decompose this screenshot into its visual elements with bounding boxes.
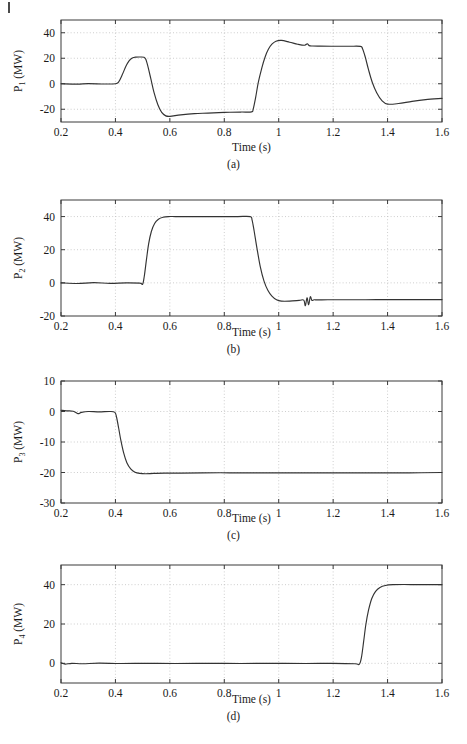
xtick-label-b-7: 1.6 bbox=[435, 320, 450, 332]
xtick-label-c-3: 0.8 bbox=[217, 507, 232, 519]
chart-panel-d: 0.20.40.60.811.21.41.602040P4 (MW)Time (… bbox=[0, 539, 467, 734]
xtick-label-a-6: 1.4 bbox=[380, 126, 395, 138]
xlabel-b: Time (s) bbox=[232, 326, 271, 339]
xtick-label-d-4: 1 bbox=[276, 687, 282, 699]
ytick-label-a-2: 20 bbox=[44, 52, 56, 64]
plot-frame-a bbox=[61, 20, 442, 122]
xtick-label-c-7: 1.6 bbox=[435, 507, 450, 519]
xtick-label-d-2: 0.6 bbox=[163, 687, 178, 699]
xlabel-d: Time (s) bbox=[232, 693, 271, 706]
ytick-label-c-1: -20 bbox=[40, 467, 56, 479]
ytick-label-c-3: 0 bbox=[49, 406, 55, 418]
trace-d-P4 bbox=[61, 584, 442, 664]
xtick-label-d-6: 1.4 bbox=[380, 687, 395, 699]
chart-panel-a: 0.20.40.60.811.21.41.6-2002040P1 (MW)Tim… bbox=[0, 0, 467, 182]
svg-text:P3 (MW): P3 (MW) bbox=[12, 421, 27, 463]
ytick-label-d-1: 20 bbox=[44, 618, 56, 630]
xtick-label-c-1: 0.4 bbox=[108, 507, 123, 519]
ytick-label-a-0: -20 bbox=[40, 103, 56, 115]
xtick-label-a-2: 0.6 bbox=[163, 126, 178, 138]
chart-panel-b: 0.20.40.60.811.21.41.6-2002040P2 (MW)Tim… bbox=[0, 174, 467, 367]
ytick-label-a-3: 40 bbox=[44, 27, 56, 39]
ytick-label-b-0: -20 bbox=[40, 310, 56, 322]
xtick-label-a-0: 0.2 bbox=[54, 126, 69, 138]
plot-c: 0.20.40.60.811.21.41.6-30-20-10010P3 (MW… bbox=[0, 355, 467, 553]
xtick-label-b-5: 1.2 bbox=[326, 320, 341, 332]
panel-caption-d: (d) bbox=[227, 710, 241, 723]
plot-a: 0.20.40.60.811.21.41.6-2002040P1 (MW)Tim… bbox=[0, 0, 467, 182]
xtick-label-c-5: 1.2 bbox=[326, 507, 341, 519]
xtick-label-d-3: 0.8 bbox=[217, 687, 232, 699]
ylabel-d: P4 (MW) bbox=[12, 603, 27, 645]
trace-b-P2 bbox=[61, 216, 442, 305]
xtick-label-b-4: 1 bbox=[276, 320, 282, 332]
xtick-label-c-6: 1.4 bbox=[380, 507, 395, 519]
xtick-label-a-7: 1.6 bbox=[435, 126, 450, 138]
plot-d: 0.20.40.60.811.21.41.602040P4 (MW)Time (… bbox=[0, 539, 467, 734]
trace-a-P1 bbox=[61, 40, 442, 116]
xtick-label-a-4: 1 bbox=[276, 126, 282, 138]
ytick-label-c-4: 10 bbox=[44, 375, 56, 387]
xtick-label-b-3: 0.8 bbox=[217, 320, 232, 332]
xtick-label-a-5: 1.2 bbox=[326, 126, 341, 138]
ytick-label-b-1: 0 bbox=[49, 277, 55, 289]
xtick-label-b-0: 0.2 bbox=[54, 320, 69, 332]
xtick-label-a-3: 0.8 bbox=[217, 126, 232, 138]
ytick-label-d-0: 0 bbox=[49, 657, 55, 669]
ytick-label-b-2: 20 bbox=[44, 244, 56, 256]
xtick-label-c-0: 0.2 bbox=[54, 507, 69, 519]
xtick-label-a-1: 0.4 bbox=[108, 126, 123, 138]
svg-text:P2 (MW): P2 (MW) bbox=[12, 237, 27, 279]
ytick-label-d-2: 40 bbox=[44, 579, 56, 591]
xtick-label-b-1: 0.4 bbox=[108, 320, 123, 332]
svg-text:P4 (MW): P4 (MW) bbox=[12, 603, 27, 645]
xtick-label-c-2: 0.6 bbox=[163, 507, 178, 519]
ylabel-b: P2 (MW) bbox=[12, 237, 27, 279]
xtick-label-d-5: 1.2 bbox=[326, 687, 341, 699]
xtick-label-d-0: 0.2 bbox=[54, 687, 69, 699]
xlabel-c: Time (s) bbox=[232, 512, 271, 525]
ylabel-c: P3 (MW) bbox=[12, 421, 27, 463]
xtick-label-b-2: 0.6 bbox=[163, 320, 178, 332]
xtick-label-d-7: 1.6 bbox=[435, 687, 450, 699]
ytick-label-b-3: 40 bbox=[44, 211, 56, 223]
panel-caption-a: (a) bbox=[227, 158, 240, 171]
ytick-label-c-2: -10 bbox=[40, 436, 56, 448]
ytick-label-a-1: 0 bbox=[49, 78, 55, 90]
svg-text:P1 (MW): P1 (MW) bbox=[12, 50, 27, 92]
ytick-label-c-0: -30 bbox=[40, 497, 56, 509]
ylabel-a: P1 (MW) bbox=[12, 50, 27, 92]
xtick-label-c-4: 1 bbox=[276, 507, 282, 519]
chart-panel-c: 0.20.40.60.811.21.41.6-30-20-10010P3 (MW… bbox=[0, 355, 467, 553]
xtick-label-b-6: 1.4 bbox=[380, 320, 395, 332]
xtick-label-d-1: 0.4 bbox=[108, 687, 123, 699]
plot-b: 0.20.40.60.811.21.41.6-2002040P2 (MW)Tim… bbox=[0, 174, 467, 367]
xlabel-a: Time (s) bbox=[232, 141, 271, 154]
